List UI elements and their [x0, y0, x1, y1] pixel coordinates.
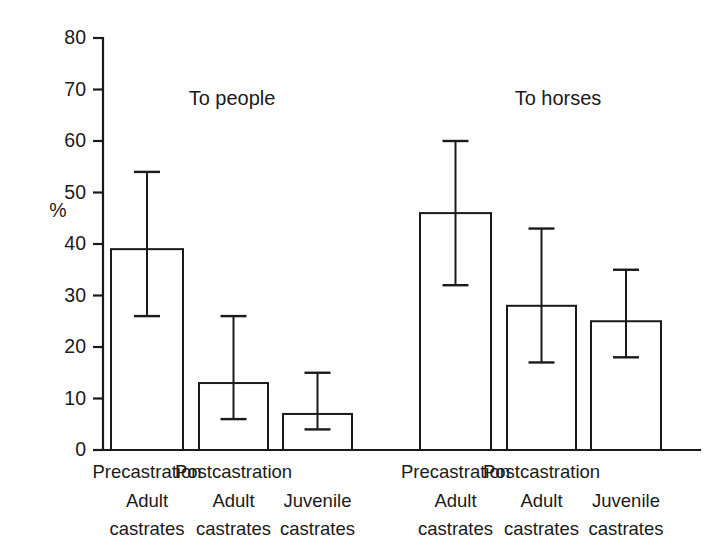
- category-label-line: castrates: [196, 518, 271, 539]
- y-tick-label: 50: [64, 181, 86, 203]
- category-label-line: Adult: [126, 490, 168, 511]
- y-tick-label: 70: [64, 78, 86, 100]
- y-tick-label: 0: [75, 438, 86, 460]
- category-label-line: castrates: [588, 518, 663, 539]
- y-tick-label: 10: [64, 387, 86, 409]
- y-tick-label: 80: [64, 26, 86, 48]
- category-label-line: castrates: [418, 518, 493, 539]
- y-tick-group: 01020304050607080: [64, 26, 103, 460]
- y-tick-label: 40: [64, 232, 86, 254]
- bar-group: [111, 141, 661, 450]
- category-label-line: Postcastration: [483, 461, 600, 482]
- group-title-to-people: To people: [189, 87, 276, 109]
- category-label-line: Postcastration: [175, 461, 292, 482]
- y-tick-label: 20: [64, 335, 86, 357]
- category-label-line: Adult: [434, 490, 476, 511]
- bar-chart-figure: 01020304050607080 % To people To horses …: [0, 0, 714, 556]
- category-label-line: Juvenile: [592, 490, 660, 511]
- category-label-line: castrates: [280, 518, 355, 539]
- category-label-group: PrecastrationAdultcastratesPostcastratio…: [93, 461, 664, 539]
- chart-canvas: 01020304050607080 % To people To horses …: [0, 0, 714, 556]
- y-tick-label: 30: [64, 284, 86, 306]
- category-label-line: castrates: [109, 518, 184, 539]
- category-label-line: Juvenile: [284, 490, 352, 511]
- category-label-line: Adult: [212, 490, 254, 511]
- category-label-line: Adult: [520, 490, 562, 511]
- group-title-to-horses: To horses: [515, 87, 602, 109]
- category-label-line: castrates: [504, 518, 579, 539]
- y-tick-label: 60: [64, 129, 86, 151]
- y-axis-title: %: [49, 199, 66, 221]
